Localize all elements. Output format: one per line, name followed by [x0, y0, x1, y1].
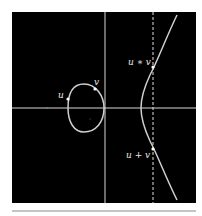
- label-v: v: [94, 77, 99, 87]
- faint-dot: [89, 118, 90, 119]
- point-u: [66, 97, 69, 100]
- elliptic-curve-figure: u v u ∗ v u + v: [0, 0, 202, 216]
- point-u-plus-v: [151, 147, 154, 150]
- label-u: u: [58, 90, 64, 100]
- label-u-plus-v: u + v: [126, 150, 150, 160]
- point-v: [93, 87, 96, 90]
- point-u-star-v: [151, 65, 154, 68]
- label-u-star-v: u ∗ v: [128, 57, 151, 67]
